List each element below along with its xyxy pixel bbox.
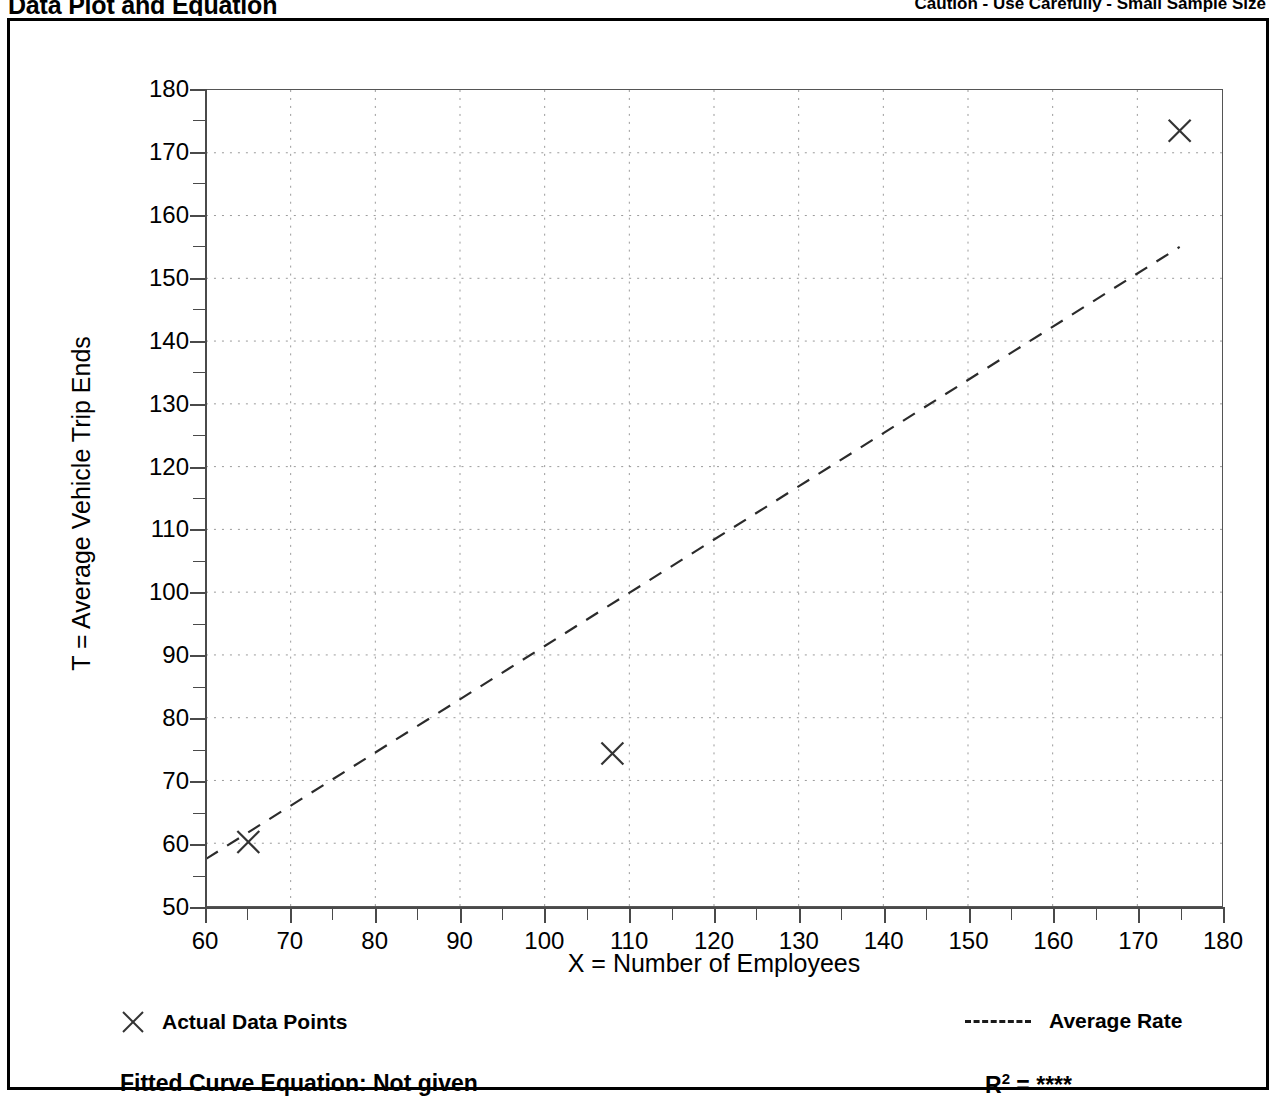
y-tick-minor bbox=[193, 876, 206, 877]
y-tick-major bbox=[190, 907, 206, 909]
caution-note: Caution - Use Carefully - Small Sample S… bbox=[915, 0, 1266, 14]
y-tick-label: 150 bbox=[109, 266, 189, 290]
y-tick-minor bbox=[193, 624, 206, 625]
y-axis-title: T = Average Vehicle Trip Ends bbox=[67, 329, 96, 679]
y-tick-minor bbox=[193, 750, 206, 751]
y-tick-major bbox=[190, 529, 206, 531]
y-tick-minor bbox=[193, 435, 206, 436]
r-squared-number: = **** bbox=[1016, 1072, 1072, 1098]
y-tick-major bbox=[190, 781, 206, 783]
y-tick-minor bbox=[193, 120, 206, 121]
y-tick-minor bbox=[193, 372, 206, 373]
r-squared-exponent: 2 bbox=[1002, 1070, 1010, 1087]
x-tick-major bbox=[799, 907, 801, 923]
x-tick-major bbox=[544, 907, 546, 923]
y-tick-major bbox=[190, 152, 206, 154]
y-tick-minor bbox=[193, 561, 206, 562]
y-tick-major bbox=[190, 844, 206, 846]
legend-data-points: Actual Data Points bbox=[120, 1009, 348, 1035]
x-tick-major bbox=[205, 907, 207, 923]
y-tick-label: 130 bbox=[109, 392, 189, 416]
x-tick-minor bbox=[926, 908, 927, 920]
page-title: Data Plot and Equation bbox=[8, 0, 277, 16]
fitted-curve-equation: Fitted Curve Equation: Not given bbox=[120, 1070, 478, 1097]
x-tick-minor bbox=[587, 908, 588, 920]
y-tick-minor bbox=[193, 183, 206, 184]
y-tick-major bbox=[190, 215, 206, 217]
y-tick-major bbox=[190, 89, 206, 91]
data-point-marker bbox=[237, 831, 259, 853]
x-tick-major bbox=[460, 907, 462, 923]
x-tick-minor bbox=[247, 908, 248, 920]
x-marker-icon bbox=[120, 1009, 146, 1035]
x-tick-major bbox=[969, 907, 971, 923]
dashed-line-icon bbox=[965, 1020, 1031, 1023]
x-tick-major bbox=[884, 907, 886, 923]
plot-area bbox=[205, 89, 1223, 907]
x-tick-major bbox=[1223, 907, 1225, 923]
x-tick-minor bbox=[1096, 908, 1097, 920]
y-tick-minor bbox=[193, 498, 206, 499]
y-tick-major bbox=[190, 404, 206, 406]
y-tick-label: 100 bbox=[109, 580, 189, 604]
y-tick-label: 170 bbox=[109, 140, 189, 164]
x-tick-major bbox=[714, 907, 716, 923]
legend-data-points-label: Actual Data Points bbox=[162, 1010, 348, 1034]
x-tick-minor bbox=[502, 908, 503, 920]
x-tick-major bbox=[629, 907, 631, 923]
y-tick-minor bbox=[193, 687, 206, 688]
y-tick-label: 120 bbox=[109, 455, 189, 479]
x-axis-title: X = Number of Employees bbox=[205, 949, 1223, 978]
data-point-marker bbox=[1169, 120, 1191, 142]
y-tick-minor bbox=[193, 246, 206, 247]
page-header: Data Plot and Equation Caution - Use Car… bbox=[0, 0, 1278, 16]
y-tick-label: 110 bbox=[109, 517, 189, 541]
y-tick-label: 160 bbox=[109, 203, 189, 227]
legend-average-rate: Average Rate bbox=[965, 1009, 1182, 1033]
y-tick-minor bbox=[193, 309, 206, 310]
r-squared-label: R bbox=[985, 1072, 1002, 1098]
y-tick-major bbox=[190, 278, 206, 280]
x-tick-minor bbox=[332, 908, 333, 920]
x-tick-minor bbox=[417, 908, 418, 920]
legend-average-rate-label: Average Rate bbox=[1049, 1009, 1182, 1033]
y-tick-label: 90 bbox=[109, 643, 189, 667]
data-layer bbox=[206, 90, 1222, 906]
chart-frame: 5060708090100110120130140150160170180 60… bbox=[7, 18, 1269, 1090]
y-tick-major bbox=[190, 467, 206, 469]
x-tick-minor bbox=[756, 908, 757, 920]
x-tick-major bbox=[290, 907, 292, 923]
data-point-marker bbox=[601, 742, 623, 764]
x-tick-major bbox=[1138, 907, 1140, 923]
y-tick-major bbox=[190, 718, 206, 720]
y-tick-major bbox=[190, 341, 206, 343]
y-tick-label: 70 bbox=[109, 769, 189, 793]
x-tick-minor bbox=[841, 908, 842, 920]
y-tick-minor bbox=[193, 813, 206, 814]
x-tick-major bbox=[1053, 907, 1055, 923]
r-squared-value: R2 = **** bbox=[985, 1070, 1072, 1099]
y-tick-major bbox=[190, 592, 206, 594]
y-tick-label: 180 bbox=[109, 77, 189, 101]
x-tick-minor bbox=[1011, 908, 1012, 920]
x-tick-minor bbox=[1181, 908, 1182, 920]
x-tick-major bbox=[375, 907, 377, 923]
y-tick-major bbox=[190, 655, 206, 657]
trend-line bbox=[206, 247, 1180, 859]
y-tick-label: 60 bbox=[109, 832, 189, 856]
x-tick-minor bbox=[672, 908, 673, 920]
y-tick-label: 80 bbox=[109, 706, 189, 730]
y-tick-label: 140 bbox=[109, 329, 189, 353]
y-tick-label: 50 bbox=[109, 895, 189, 919]
